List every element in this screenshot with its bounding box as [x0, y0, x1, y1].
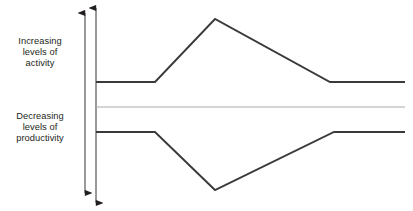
productivity-label-line-2: levels of	[0, 122, 80, 133]
diagram-canvas: Increasing levels of activity Decreasing…	[0, 0, 413, 211]
productivity-series-line	[96, 132, 405, 190]
decreasing-levels-of-productivity-label: Decreasing levels of productivity	[0, 111, 80, 145]
activity-label-line-1: Increasing	[0, 36, 80, 47]
productivity-label-line-3: productivity	[0, 133, 80, 144]
activity-series-line	[96, 19, 405, 82]
activity-label-line-2: levels of	[0, 47, 80, 58]
activity-productivity-diagram	[0, 0, 413, 211]
increasing-levels-of-activity-label: Increasing levels of activity	[0, 36, 80, 70]
activity-label-line-3: activity	[0, 58, 80, 69]
productivity-label-line-1: Decreasing	[0, 111, 80, 122]
